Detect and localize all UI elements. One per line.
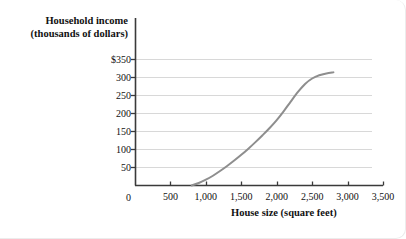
y-tick-label: 50 <box>121 162 131 173</box>
gridlines <box>135 60 372 168</box>
y-tick-label: 0 <box>126 191 131 202</box>
y-axis-title-line-2: (thousands of dollars) <box>31 28 128 41</box>
y-axis-tick-marks <box>131 60 135 168</box>
x-tick-label: 2,500 <box>301 191 324 202</box>
y-tick-label: 150 <box>116 126 131 137</box>
x-axis-title: House size (square feet) <box>231 207 337 218</box>
x-tick-label: 1,500 <box>230 191 253 202</box>
y-tick-label: 100 <box>116 144 131 155</box>
x-tick-label: 3,000 <box>336 191 359 202</box>
income-curve <box>192 72 334 185</box>
x-tick-label: 3,500 <box>372 191 395 202</box>
x-tick-label: 1,000 <box>195 191 218 202</box>
y-axis-title-line-1: Household income <box>45 15 128 28</box>
y-tick-label: 300 <box>116 72 131 83</box>
y-tick-label: 250 <box>116 90 131 101</box>
chart-card: Household income (thousands of dollars) … <box>0 0 406 239</box>
x-tick-label: 500 <box>163 191 178 202</box>
y-tick-label: 200 <box>116 108 131 119</box>
y-tick-label: $350 <box>111 54 131 65</box>
x-tick-label: 2,000 <box>265 191 288 202</box>
